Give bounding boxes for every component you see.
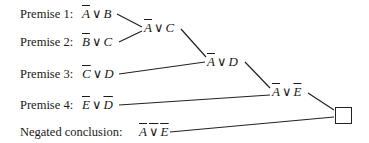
resolvent-1: A∨C [144,21,174,35]
literal: A [207,54,215,69]
literal: A [139,124,147,139]
empty-clause-box [335,107,352,124]
negated-conclusion-clause: A∨E [139,125,168,139]
or-operator: ∨ [92,6,102,21]
negated-conclusion-label: Negated conclusion: [20,125,122,139]
literal: B [103,6,111,21]
literal: A [144,20,152,35]
premise-4-clause: E∨D [82,98,113,112]
edge-p3-r2 [119,62,205,74]
or-operator: ∨ [154,20,164,35]
premise-1-clause: A∨B [82,7,111,21]
edge-nc-box [170,117,334,132]
literal: C [82,66,91,81]
literal: C [103,34,112,49]
edge-r2-r3 [245,62,270,88]
literal: D [104,66,113,81]
resolvent-3: A∨E [272,85,301,99]
literal: E [82,97,90,112]
literal: E [160,124,168,139]
literal: A [272,84,280,99]
or-operator: ∨ [149,124,159,139]
premise-2-label: Premise 2: [20,35,73,49]
premise-1-label: Premise 1: [20,7,73,21]
edge-p2-r1 [119,31,142,42]
literal: E [293,84,301,99]
literal: C [165,20,174,35]
literal: A [82,6,90,21]
premise-4-label: Premise 4: [20,98,73,112]
literal: B [82,34,90,49]
literal: D [228,54,237,69]
edge-p1-r1 [117,14,142,27]
or-operator: ∨ [217,54,227,69]
premise-3-clause: C∨D [82,67,114,81]
or-operator: ∨ [92,97,102,112]
or-operator: ∨ [93,66,103,81]
literal: D [103,97,112,112]
or-operator: ∨ [92,34,102,49]
premise-3-label: Premise 3: [20,67,73,81]
edge-p4-r3 [119,95,270,105]
or-operator: ∨ [282,84,292,99]
premise-2-clause: B∨C [82,35,112,49]
edge-r3-box [308,93,334,110]
edge-r1-r2 [181,29,206,57]
resolvent-2: A∨D [207,55,238,69]
